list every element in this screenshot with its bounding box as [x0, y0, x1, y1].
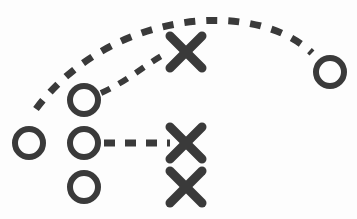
offense-marker-o1[interactable] — [15, 129, 43, 157]
offense-marker-o4[interactable] — [70, 173, 98, 201]
play-diagram: Play Diagram — [0, 0, 357, 219]
defense-marker-x3[interactable] — [170, 171, 202, 203]
offense-marker-o5[interactable] — [316, 58, 344, 86]
play-diagram-canvas — [0, 0, 357, 219]
offense-marker-o3[interactable] — [70, 129, 98, 157]
defense-marker-x2[interactable] — [170, 127, 202, 159]
offense-marker-o2[interactable] — [70, 86, 98, 114]
